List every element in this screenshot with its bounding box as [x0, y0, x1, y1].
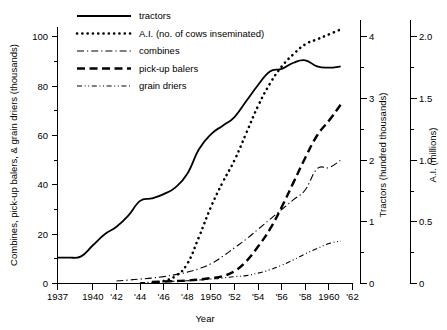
x-axis-tick-label: '62: [346, 291, 358, 302]
x-axis-tick-label: 1937: [47, 291, 68, 302]
x-axis-tick-label: 1940: [82, 291, 103, 302]
left-axis-tick-label: 40: [37, 179, 48, 190]
ai-axis-tick-label: 1.5: [419, 93, 432, 104]
x-axis-tick-label: '58: [299, 291, 311, 302]
left-axis-tick-label: 60: [37, 130, 48, 141]
ai-axis-tick-label: 0.5: [419, 216, 432, 227]
x-axis-tick-label: 1950: [200, 291, 221, 302]
x-axis-tick-label: '44: [134, 291, 146, 302]
tractors-axis-tick-label: 0: [369, 278, 374, 289]
x-axis-tick-label: '56: [276, 291, 288, 302]
left-axis-tick-label: 20: [37, 229, 48, 240]
tractors-axis-tick-label: 3: [369, 93, 374, 104]
legend-label-2: combines: [139, 45, 180, 56]
x-axis-tick-label: '54: [252, 291, 264, 302]
x-axis-tick-label: 1960: [318, 291, 339, 302]
tractors-axis-tick-label: 4: [369, 31, 374, 42]
legend-label-0: tractors: [139, 10, 171, 21]
ai-axis-tick-label: 0: [419, 278, 424, 289]
x-axis-tick-label: '46: [158, 291, 170, 302]
left-axis-tick-label: 100: [32, 31, 48, 42]
legend-label-4: grain driers: [139, 80, 187, 91]
tractors-axis-tick-label: 1: [369, 216, 374, 227]
legend-label-1: A.I. (no. of cows inseminated): [139, 28, 264, 39]
tractors-axis-title: Tractors (hundred thousands): [377, 93, 388, 218]
left-axis-tick-label: 0: [43, 278, 48, 289]
tractors-axis-tick-label: 2: [369, 155, 374, 166]
x-axis-tick-label: '48: [181, 291, 193, 302]
x-axis-tick-label: '42: [110, 291, 122, 302]
x-axis-title: Year: [195, 313, 214, 324]
chart-figure: 020406080100 19371940'42'44'46'481950'52…: [0, 0, 447, 330]
left-axis-tick-label: 80: [37, 81, 48, 92]
legend-label-3: pick-up balers: [139, 63, 198, 74]
ai-axis-tick-label: 2.0: [419, 31, 432, 42]
chart-canvas: 020406080100 19371940'42'44'46'481950'52…: [0, 0, 447, 330]
ai-axis-title: A.I. (millions): [427, 128, 438, 183]
x-axis-tick-label: '52: [228, 291, 240, 302]
left-axis-title: Combines, pick-up balers, & grain driers…: [8, 44, 19, 266]
